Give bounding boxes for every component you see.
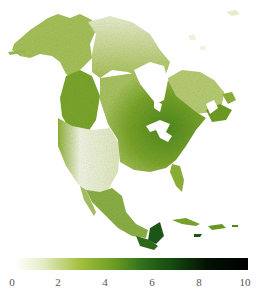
greenland-fragment [226, 10, 240, 16]
colorbar-tick-label: 10 [240, 276, 251, 288]
colorbar-tick-label: 4 [102, 276, 108, 288]
colorbar [15, 258, 248, 270]
region-great-basin [58, 118, 120, 196]
region-cuba [172, 218, 200, 226]
colorbar-tick-label: 0 [9, 276, 15, 288]
north-america-map [0, 0, 264, 250]
colorbar-tick-label: 6 [149, 276, 155, 288]
region-jamaica [194, 234, 202, 237]
arctic-island-2 [200, 46, 206, 50]
arctic-island-1 [188, 34, 196, 40]
region-florida [170, 164, 184, 192]
region-hispaniola [208, 224, 226, 230]
arctic-islands [188, 10, 240, 50]
colorbar-tick-label: 2 [55, 276, 61, 288]
region-puerto-rico [232, 225, 238, 227]
map-panel [0, 0, 264, 250]
region-alaska [12, 14, 96, 78]
region-newfoundland [222, 92, 236, 104]
gulf-of-mexico [126, 186, 172, 222]
colorbar-ramp [15, 258, 248, 270]
colorbar-tick-label: 8 [196, 276, 202, 288]
